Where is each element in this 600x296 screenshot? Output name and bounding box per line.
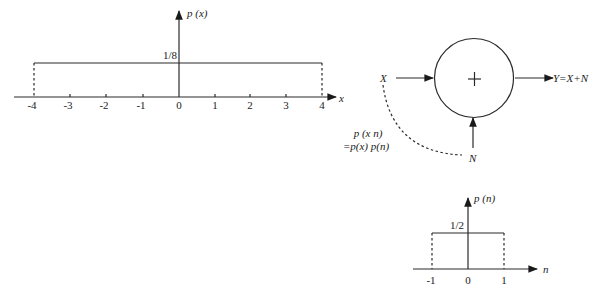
- x-axis-label: n: [543, 263, 549, 275]
- chart-px: -4 -3 -2 -1 0 1 2 3 4 1/8 p (x) x: [14, 7, 344, 111]
- tick-label: 3: [283, 99, 289, 111]
- level-label: 1/8: [163, 49, 178, 61]
- input-n-label: N: [468, 152, 477, 164]
- diagram-canvas: -4 -3 -2 -1 0 1 2 3 4 1/8 p (x) x X N Y=…: [0, 0, 600, 296]
- tick-label: 1: [212, 99, 218, 111]
- input-x-label: X: [379, 72, 388, 84]
- tick-label: 1: [501, 274, 507, 286]
- y-axis-label: p (x): [186, 7, 208, 20]
- tick-label: 0: [465, 274, 471, 286]
- tick-label: -2: [99, 99, 108, 111]
- y-axis-label: p (n): [473, 192, 495, 205]
- joint-pdf-label: p (x n): [353, 127, 383, 140]
- independence-label: =p(x) p(n): [343, 140, 390, 153]
- chart-pn: -1 0 1 1/2 p (n) n: [413, 192, 549, 286]
- tick-label: 0: [176, 99, 182, 111]
- tick-label: -1: [136, 99, 145, 111]
- adder-block-diagram: X N Y=X+N p (x n) =p(x) p(n): [343, 39, 589, 165]
- dependency-dashed-curve: [383, 85, 462, 155]
- plus-icon: [468, 72, 481, 86]
- x-axis-label: x: [338, 92, 344, 104]
- output-label: Y=X+N: [553, 72, 589, 84]
- tick-label: 2: [247, 99, 253, 111]
- level-label: 1/2: [450, 219, 464, 231]
- tick-label: -3: [63, 99, 73, 111]
- tick-label: -1: [426, 274, 435, 286]
- tick-label: -4: [27, 99, 37, 111]
- tick-label: 4: [319, 99, 325, 111]
